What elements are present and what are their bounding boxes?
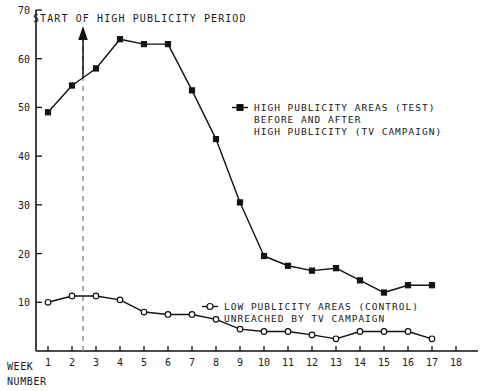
series-polyline (48, 39, 432, 292)
y-tick-label: 20 (18, 249, 30, 260)
data-point-marker (45, 110, 50, 115)
data-point-marker (333, 266, 338, 271)
data-point-marker (309, 332, 315, 338)
legend-test-marker-icon (237, 105, 243, 111)
data-point-marker (93, 66, 98, 71)
y-tick-label: 70 (18, 5, 30, 16)
legend-test-label-line3: HIGH PUBLICITY (TV CAMPAIGN) (254, 126, 442, 137)
data-point-marker (117, 37, 122, 42)
data-point-marker (357, 329, 363, 335)
x-tick-label: 17 (426, 357, 438, 368)
legend-test: HIGH PUBLICITY AREAS (TEST) BEFORE AND A… (232, 102, 442, 137)
x-tick-label: 12 (306, 357, 318, 368)
x-tick-label: 13 (330, 357, 342, 368)
x-tick-label: 9 (237, 357, 243, 368)
x-tick-label: 5 (141, 357, 147, 368)
data-point-marker (69, 83, 74, 88)
number-label: NUMBER (7, 376, 47, 387)
start-period-annotation: START OF HIGH PUBLICITY PERIOD (33, 13, 247, 351)
x-axis-ticks: 123456789101112131415161718 (45, 346, 462, 368)
data-point-marker (429, 283, 434, 288)
x-tick-label: 4 (117, 357, 123, 368)
data-point-marker (141, 309, 147, 315)
data-point-marker (333, 336, 339, 342)
x-tick-label: 10 (258, 357, 270, 368)
legend-control-marker-icon (207, 304, 213, 310)
y-tick-label: 10 (18, 297, 30, 308)
data-point-marker (69, 293, 75, 299)
data-point-marker (165, 42, 170, 47)
data-point-marker (309, 268, 314, 273)
data-point-marker (237, 326, 243, 332)
x-tick-label: 1 (45, 357, 51, 368)
x-tick-label: 3 (93, 357, 99, 368)
data-point-marker (381, 290, 386, 295)
y-tick-label: 50 (18, 102, 30, 113)
x-tick-label: 8 (213, 357, 219, 368)
week-label: WEEK (7, 361, 33, 372)
data-point-marker (429, 336, 435, 342)
data-point-marker (357, 278, 362, 283)
data-point-marker (45, 299, 51, 305)
data-point-marker (285, 263, 290, 268)
data-point-marker (285, 329, 291, 335)
x-tick-label: 14 (354, 357, 366, 368)
y-tick-label: 30 (18, 200, 30, 211)
data-point-marker (189, 312, 195, 318)
legend-control: LOW PUBLICITY AREAS (CONTROL) UNREACHED … (202, 301, 419, 324)
legend-test-label-line1: HIGH PUBLICITY AREAS (TEST) (254, 102, 435, 113)
data-point-marker (117, 297, 123, 303)
x-tick-label: 16 (402, 357, 414, 368)
data-point-marker (189, 88, 194, 93)
data-point-marker (213, 317, 219, 323)
series-test (45, 37, 434, 296)
start-period-label: START OF HIGH PUBLICITY PERIOD (33, 13, 247, 24)
data-point-marker (237, 200, 242, 205)
x-tick-label: 2 (69, 357, 75, 368)
legend-control-label-line1: LOW PUBLICITY AREAS (CONTROL) (224, 301, 419, 312)
x-tick-label: 11 (282, 357, 294, 368)
data-point-marker (405, 283, 410, 288)
arrow-up-icon (78, 26, 88, 40)
chart-container: 10203040506070 1234567891011121314151617… (0, 0, 485, 391)
legend-control-label-line2: UNREACHED BY TV CAMPAIGN (224, 313, 385, 324)
y-axis-ticks: 10203040506070 (18, 5, 42, 308)
series-layer (45, 37, 435, 342)
data-point-marker (261, 253, 266, 258)
data-point-marker (141, 42, 146, 47)
legend-test-label-line2: BEFORE AND AFTER (254, 114, 362, 125)
x-tick-label: 18 (450, 357, 462, 368)
data-point-marker (213, 136, 218, 141)
y-tick-label: 60 (18, 54, 30, 65)
x-tick-label: 15 (378, 357, 390, 368)
line-chart-plot: 10203040506070 1234567891011121314151617… (0, 0, 485, 391)
x-tick-label: 7 (189, 357, 195, 368)
x-tick-label: 6 (165, 357, 171, 368)
x-axis-title: WEEK NUMBER (7, 361, 47, 387)
data-point-marker (93, 293, 99, 299)
data-point-marker (381, 329, 387, 335)
data-point-marker (405, 329, 411, 335)
data-point-marker (261, 329, 267, 335)
data-point-marker (165, 312, 171, 318)
y-tick-label: 40 (18, 151, 30, 162)
